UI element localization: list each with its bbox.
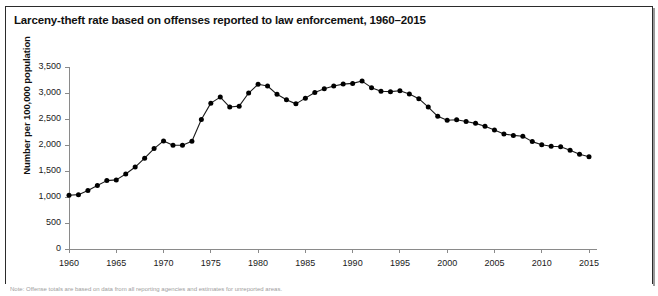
x-tick-label: 2005: [474, 258, 514, 268]
data-point: [303, 96, 308, 101]
y-tick-label: 3,000: [27, 87, 61, 97]
data-point: [331, 83, 336, 88]
chart-figure: Larceny-theft rate based on offenses rep…: [0, 0, 658, 296]
data-point: [246, 91, 251, 96]
data-point: [256, 82, 261, 87]
data-point: [464, 119, 469, 124]
x-tick-label: 1995: [380, 258, 420, 268]
data-point: [312, 90, 317, 95]
data-point: [237, 104, 242, 109]
data-point: [530, 139, 535, 144]
x-tick-label: 2015: [569, 258, 609, 268]
data-point: [388, 89, 393, 94]
x-tick-label: 1975: [191, 258, 231, 268]
data-point: [152, 146, 157, 151]
data-point: [171, 143, 176, 148]
data-point: [511, 133, 516, 138]
data-point: [341, 82, 346, 87]
x-tick-label: 2010: [522, 258, 562, 268]
data-point: [568, 148, 573, 153]
data-point: [133, 165, 138, 170]
data-point: [350, 81, 355, 86]
y-tick-label: 1,000: [27, 191, 61, 201]
data-point: [104, 178, 109, 183]
data-point: [208, 101, 213, 106]
data-point: [360, 79, 365, 84]
data-point: [445, 118, 450, 123]
data-point: [520, 134, 525, 139]
x-tick-label: 1990: [333, 258, 373, 268]
data-point: [218, 95, 223, 100]
data-point: [199, 117, 204, 122]
series-line: [69, 81, 589, 195]
data-point: [558, 144, 563, 149]
y-tick-label: 2,500: [27, 113, 61, 123]
data-point: [492, 128, 497, 133]
series-markers: [67, 79, 592, 198]
y-tick-label: 500: [27, 217, 61, 227]
data-point: [501, 131, 506, 136]
data-point: [284, 97, 289, 102]
plot-area: Number per 100,000 population 05001,0001…: [0, 0, 658, 296]
data-point: [293, 101, 298, 106]
axis-lines: [69, 67, 597, 249]
data-point: [407, 92, 412, 97]
data-point: [416, 96, 421, 101]
data-point: [369, 85, 374, 90]
y-tick-label: 1,500: [27, 165, 61, 175]
data-point: [161, 138, 166, 143]
data-point: [549, 144, 554, 149]
data-point: [577, 152, 582, 157]
x-tick-label: 2000: [427, 258, 467, 268]
x-tick-label: 1970: [144, 258, 184, 268]
x-tick-label: 1960: [49, 258, 89, 268]
data-point: [189, 139, 194, 144]
data-point: [123, 171, 128, 176]
x-tick-label: 1965: [96, 258, 136, 268]
data-point: [426, 105, 431, 110]
data-point: [67, 193, 72, 198]
data-point: [227, 105, 232, 110]
data-point: [435, 114, 440, 119]
data-point: [85, 188, 90, 193]
data-point: [180, 143, 185, 148]
data-point: [76, 192, 81, 197]
data-point: [379, 89, 384, 94]
data-point: [275, 92, 280, 97]
data-point: [483, 124, 488, 129]
x-tick-label: 1980: [238, 258, 278, 268]
data-point: [454, 117, 459, 122]
y-tick-label: 3,500: [27, 61, 61, 71]
data-point: [265, 83, 270, 88]
data-point: [473, 121, 478, 126]
data-point: [114, 177, 119, 182]
y-tick-label: 2,000: [27, 139, 61, 149]
chart-footnote: Note: Offense totals are based on data f…: [10, 286, 282, 292]
data-point: [142, 156, 147, 161]
data-point: [397, 88, 402, 93]
line-chart-svg: [0, 0, 658, 296]
data-point: [539, 142, 544, 147]
y-axis-ticks: [65, 67, 69, 249]
x-tick-label: 1985: [285, 258, 325, 268]
data-point: [587, 154, 592, 159]
y-tick-label: 0: [27, 243, 61, 253]
data-point: [95, 183, 100, 188]
x-axis-ticks: [69, 249, 589, 253]
data-point: [322, 86, 327, 91]
